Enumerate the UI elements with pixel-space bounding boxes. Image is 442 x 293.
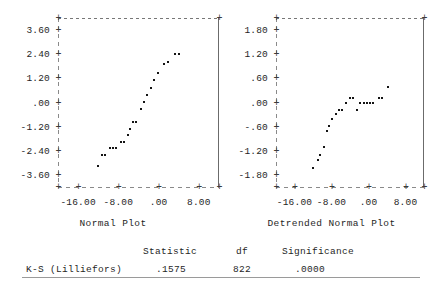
data-point xyxy=(178,53,180,55)
data-point xyxy=(326,130,328,132)
data-point xyxy=(378,97,380,99)
y-axis-tick-label: -1.20 xyxy=(221,147,268,156)
y-axis-tick-label: 3.60 xyxy=(0,26,50,35)
normal-plot-panel: +3.60+2.40+1.20+.00+-1.20+-2.40+-3.60 +-… xyxy=(0,0,226,232)
data-point xyxy=(341,109,343,111)
y-axis-tick-label: 2.40 xyxy=(0,50,50,59)
data-point xyxy=(369,102,371,104)
x-axis-tick-mark: + xyxy=(365,183,374,192)
y-axis-tick-label: 1.20 xyxy=(221,50,268,59)
data-point xyxy=(109,147,111,149)
top-frame-end-tick: + xyxy=(420,14,429,23)
y-axis-tick-mark: + xyxy=(54,147,63,156)
x-axis-end-tick: + xyxy=(54,183,63,192)
y-axis-tick-mark: + xyxy=(272,74,281,83)
data-point xyxy=(132,121,134,123)
x-axis-tick-mark: + xyxy=(74,183,83,192)
x-axis-tick-mark: + xyxy=(155,183,164,192)
column-header-df: df xyxy=(236,246,248,257)
x-axis-tick-mark: + xyxy=(114,183,123,192)
detrended-normal-plot-panel: +1.80+1.20+.60+.00+-.60+-1.20+-1.80 +-16… xyxy=(221,0,442,232)
data-point xyxy=(312,167,314,169)
y-axis-tick-mark: + xyxy=(272,147,281,156)
data-point xyxy=(135,121,137,123)
table-cell-df: 822 xyxy=(233,264,251,275)
data-point xyxy=(323,146,325,148)
y-axis-tick-mark: + xyxy=(54,99,63,108)
y-axis-tick-label: -2.40 xyxy=(0,147,50,156)
data-point xyxy=(120,141,122,143)
y-axis-tick-mark: + xyxy=(54,171,63,180)
data-point xyxy=(143,101,145,103)
data-point xyxy=(363,102,365,104)
top-frame-end-tick: + xyxy=(54,14,63,23)
data-point xyxy=(328,125,330,127)
y-axis-tick-label: .60 xyxy=(221,74,268,83)
data-point xyxy=(352,97,354,99)
y-axis-tick-label: -3.60 xyxy=(0,171,50,180)
data-point xyxy=(153,79,155,81)
y-axis-tick-label: -1.20 xyxy=(0,123,50,132)
x-axis-tick-label: 8.00 xyxy=(376,198,436,208)
y-axis-tick-label: 1.80 xyxy=(221,26,268,35)
data-point xyxy=(115,147,117,149)
data-point xyxy=(381,97,383,99)
x-axis-end-tick: + xyxy=(420,183,429,192)
detrended-normal-plot-axis-title: Detrended Normal Plot xyxy=(221,218,442,229)
data-point xyxy=(319,154,321,156)
y-axis-tick-mark: + xyxy=(54,123,63,132)
normal-plot-output: +3.60+2.40+1.20+.00+-1.20+-2.40+-3.60 +-… xyxy=(0,0,442,293)
table-cell-statistic: .1575 xyxy=(156,264,186,275)
data-point xyxy=(127,134,129,136)
data-point xyxy=(317,159,319,161)
data-point xyxy=(335,113,337,115)
data-point xyxy=(146,94,148,96)
data-point xyxy=(123,141,125,143)
data-point xyxy=(331,118,333,120)
x-axis-tick-mark: + xyxy=(291,183,300,192)
data-point xyxy=(157,72,159,74)
x-axis-tick-mark: + xyxy=(402,183,411,192)
y-axis-tick-label: .00 xyxy=(0,99,50,108)
y-axis-tick-mark: + xyxy=(272,123,281,132)
y-axis-tick-label: 1.20 xyxy=(0,74,50,83)
y-axis-tick-mark: + xyxy=(54,26,63,35)
data-point xyxy=(140,108,142,110)
y-axis-tick-label: .00 xyxy=(221,99,268,108)
x-axis-end-tick: + xyxy=(272,183,281,192)
data-point xyxy=(101,154,103,156)
data-point xyxy=(338,109,340,111)
x-axis-tick-mark: + xyxy=(328,183,337,192)
y-axis-tick-mark: + xyxy=(54,50,63,59)
column-header-significance: Significance xyxy=(282,246,354,257)
table-row-label: K-S (Lilliefors) xyxy=(26,264,122,275)
y-axis-tick-mark: + xyxy=(272,171,281,180)
data-point xyxy=(150,87,152,89)
data-point xyxy=(167,61,169,63)
y-axis-tick-label: -1.80 xyxy=(221,171,268,180)
data-point xyxy=(129,128,131,130)
data-point xyxy=(349,97,351,99)
statistics-table: Statistic df Significance K-S (Lilliefor… xyxy=(0,234,442,293)
y-axis-tick-mark: + xyxy=(54,74,63,83)
data-point xyxy=(97,165,99,167)
normal-plot-area xyxy=(58,18,219,187)
table-divider-rule xyxy=(22,277,420,278)
detrended-normal-plot-area xyxy=(276,18,424,187)
data-point xyxy=(372,102,374,104)
data-point xyxy=(112,147,114,149)
data-point xyxy=(345,102,347,104)
data-point xyxy=(387,86,389,88)
y-axis-tick-label: -.60 xyxy=(221,123,268,132)
normal-plot-axis-title: Normal Plot xyxy=(0,218,226,229)
column-header-statistic: Statistic xyxy=(143,246,197,257)
x-axis-tick-mark: + xyxy=(195,183,204,192)
data-point xyxy=(356,109,358,111)
data-point xyxy=(359,102,361,104)
data-point xyxy=(163,63,165,65)
y-axis-tick-mark: + xyxy=(272,26,281,35)
x-axis-tick-label: 8.00 xyxy=(169,198,229,208)
data-point xyxy=(366,102,368,104)
y-axis-tick-mark: + xyxy=(272,99,281,108)
top-frame-end-tick: + xyxy=(272,14,281,23)
